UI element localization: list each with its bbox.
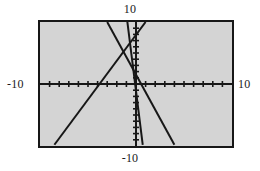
plot-canvas bbox=[40, 22, 232, 146]
axis-label-left: -10 bbox=[7, 77, 24, 92]
graph-figure: 10 -10 10 -10 bbox=[0, 0, 260, 171]
axis-label-right: 10 bbox=[238, 77, 250, 92]
axis-label-top: 10 bbox=[0, 2, 260, 17]
plot-area bbox=[38, 20, 234, 148]
axis-label-bottom: -10 bbox=[0, 151, 260, 166]
